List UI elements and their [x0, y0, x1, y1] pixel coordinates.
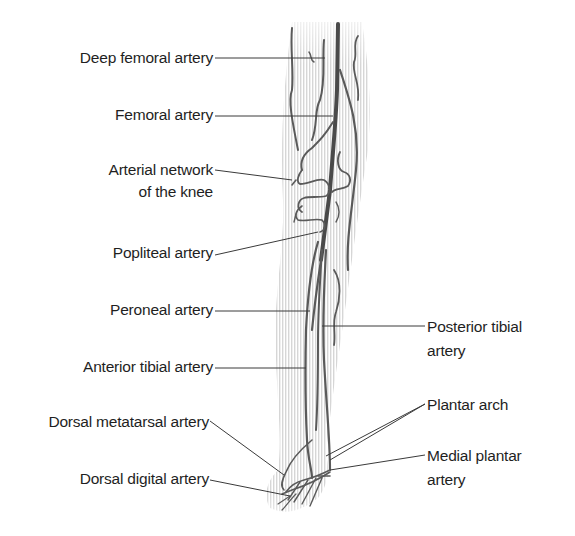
label-plantar-arch: Plantar arch [427, 395, 508, 414]
label-dorsal-digital-artery: Dorsal digital artery [80, 469, 209, 488]
label-anterior-tibial-artery: Anterior tibial artery [83, 357, 213, 376]
label-medial-plantar-line1: Medial plantar [427, 446, 522, 465]
label-arterial-network-line1: Arterial network [109, 160, 213, 179]
label-peroneal-artery: Peroneal artery [110, 300, 213, 319]
label-femoral-artery: Femoral artery [115, 105, 213, 124]
label-popliteal-artery: Popliteal artery [113, 243, 213, 262]
label-arterial-network-line2: of the knee [139, 182, 214, 201]
label-medial-plantar-line2: artery [427, 470, 465, 489]
label-deep-femoral-artery: Deep femoral artery [80, 48, 213, 67]
label-dorsal-metatarsal-artery: Dorsal metatarsal artery [48, 412, 209, 431]
label-posterior-tibial-line1: Posterior tibial [427, 317, 522, 336]
label-posterior-tibial-line2: artery [427, 341, 465, 360]
